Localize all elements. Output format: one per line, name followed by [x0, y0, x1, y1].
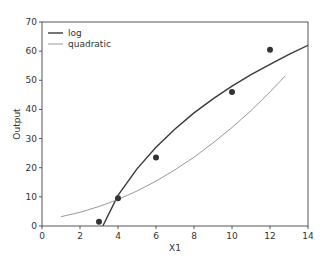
data-point — [267, 47, 273, 53]
y-tick-label: 60 — [26, 46, 38, 56]
series-line-log — [103, 45, 308, 226]
x-axis-label: X1 — [169, 243, 181, 253]
chart-container: 02468101214010203040506070X1Outputlogqua… — [0, 0, 329, 260]
x-tick-label: 14 — [302, 231, 314, 241]
x-tick-label: 6 — [153, 231, 159, 241]
legend-label-quadratic: quadratic — [68, 39, 111, 49]
data-point — [96, 219, 102, 225]
y-tick-label: 0 — [31, 221, 37, 231]
x-tick-label: 12 — [264, 231, 275, 241]
y-tick-label: 50 — [26, 75, 38, 85]
y-tick-label: 20 — [26, 163, 38, 173]
x-tick-label: 2 — [77, 231, 83, 241]
x-tick-label: 10 — [226, 231, 238, 241]
y-tick-label: 70 — [26, 17, 38, 27]
y-tick-label: 40 — [26, 104, 38, 114]
x-tick-label: 8 — [191, 231, 197, 241]
legend-label-log: log — [68, 28, 82, 38]
x-tick-label: 0 — [39, 231, 45, 241]
plot-frame — [42, 22, 308, 226]
series-line-quadratic — [61, 76, 285, 217]
data-point — [153, 155, 159, 161]
y-tick-label: 10 — [26, 192, 38, 202]
y-axis-label: Output — [12, 108, 22, 140]
y-tick-label: 30 — [26, 134, 38, 144]
x-tick-label: 4 — [115, 231, 121, 241]
line-chart: 02468101214010203040506070X1Outputlogqua… — [0, 0, 329, 260]
data-point — [115, 195, 121, 201]
data-point — [229, 89, 235, 95]
